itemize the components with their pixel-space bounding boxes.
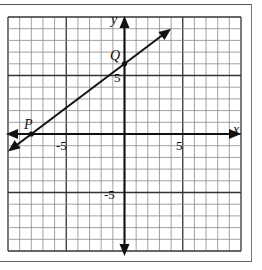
point-q-label: Q [110, 48, 120, 63]
tick-label-y-neg5: -5 [104, 187, 115, 202]
point-q [122, 61, 127, 66]
point-p [29, 131, 34, 136]
x-axis-label: x [232, 122, 240, 137]
tick-label-y-5: 5 [114, 70, 121, 85]
y-axis-label: y [109, 12, 118, 27]
coordinate-plane: y x Q P -5 5 5 -5 [0, 0, 262, 270]
tick-label-x-5: 5 [176, 138, 183, 153]
point-p-label: P [23, 117, 33, 132]
tick-label-x-neg5: -5 [56, 138, 67, 153]
